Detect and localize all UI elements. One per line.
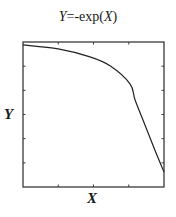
title-end: ): [113, 9, 118, 24]
data-curve: [23, 45, 164, 172]
plot-frame: [23, 42, 164, 187]
x-axis-label: X: [87, 189, 97, 207]
title-x-var: X: [104, 9, 113, 24]
chart-title: Y=-exp(X): [0, 8, 176, 26]
y-axis-label: Y: [4, 105, 13, 123]
chart-plot: [0, 0, 176, 217]
title-y-var: Y: [59, 9, 67, 24]
axis-ticks: [23, 42, 164, 187]
title-middle: =-exp(: [67, 9, 104, 24]
